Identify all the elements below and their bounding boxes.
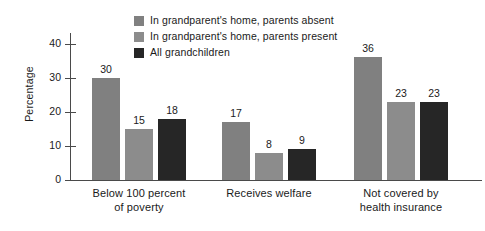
- x-axis-category-label: Not covered byhealth insurance: [326, 186, 476, 214]
- bar: 9: [288, 149, 316, 180]
- x-axis-category-label-line: Receives welfare: [194, 186, 344, 200]
- x-axis-category-labels: Below 100 percentof povertyReceives welf…: [70, 186, 482, 228]
- x-axis-category-label-line: Below 100 percent: [64, 186, 214, 200]
- bar: 36: [354, 57, 382, 180]
- x-axis-category-label-line: health insurance: [326, 200, 476, 214]
- bar: 23: [387, 102, 415, 180]
- legend-item: In grandparent's home, parents absent: [134, 13, 337, 28]
- x-axis-category-label-line: of poverty: [64, 200, 214, 214]
- y-axis-tick-label: 30: [49, 71, 61, 83]
- x-axis-category-label-line: Not covered by: [326, 186, 476, 200]
- y-axis-tick-label: 20: [49, 105, 61, 117]
- legend-item-label: In grandparent's home, parents absent: [150, 15, 334, 26]
- x-axis-category-label: Receives welfare: [194, 186, 344, 200]
- y-axis-tick-label: 40: [49, 37, 61, 49]
- x-axis-line: [70, 180, 482, 181]
- bar-value-label: 17: [230, 107, 242, 119]
- bar-value-label: 23: [428, 87, 440, 99]
- bar-value-label: 18: [166, 104, 178, 116]
- bar-value-label: 9: [299, 134, 305, 146]
- bar: 23: [420, 102, 448, 180]
- bar: 15: [125, 129, 153, 180]
- bar-value-label: 30: [100, 63, 112, 75]
- bar: 18: [158, 119, 186, 180]
- bar-value-label: 8: [266, 138, 272, 150]
- bar: 17: [222, 122, 250, 180]
- bars-layer: 3015181789362323: [70, 30, 482, 180]
- bar: 30: [92, 78, 120, 180]
- y-axis-tick-label: 0: [55, 173, 61, 185]
- y-axis-tick-label: 10: [49, 139, 61, 151]
- bar-value-label: 23: [395, 87, 407, 99]
- bar-value-label: 36: [362, 42, 374, 54]
- y-axis-title: Percentage: [23, 49, 35, 139]
- bar-chart: In grandparent's home, parents absent In…: [0, 0, 485, 231]
- plot-area: 010203040 3015181789362323: [70, 30, 482, 180]
- x-axis-category-label: Below 100 percentof poverty: [64, 186, 214, 214]
- legend-swatch-icon: [134, 16, 144, 26]
- bar: 8: [255, 153, 283, 180]
- y-axis-tick: 0: [65, 180, 76, 181]
- bar-value-label: 15: [133, 114, 145, 126]
